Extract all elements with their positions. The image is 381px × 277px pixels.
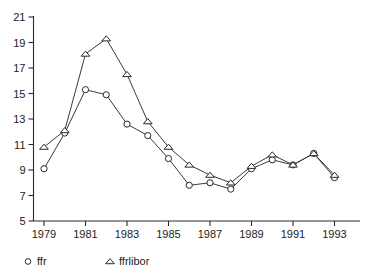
x-tick-label: 1981 — [73, 228, 97, 240]
x-tick-label: 1987 — [198, 228, 222, 240]
y-tick-label: 17 — [13, 62, 25, 74]
legend-item-ffr[interactable]: ffr — [25, 255, 47, 267]
legend-circle-icon — [25, 259, 31, 265]
y-axis: 579111315171921 — [13, 11, 33, 227]
data-point-triangle-marker — [164, 144, 173, 149]
data-point-circle-marker — [186, 182, 192, 188]
data-point-circle-marker — [41, 166, 47, 172]
x-tick-label: 1993 — [322, 228, 346, 240]
data-point-circle-marker — [103, 92, 109, 98]
legend-label: ffrlibor — [119, 255, 150, 267]
data-point-triangle-marker — [206, 172, 215, 177]
y-tick-label: 15 — [13, 88, 25, 100]
chart-legend: ffrffrlibor — [25, 255, 149, 267]
legend-item-ffrlibor[interactable]: ffrlibor — [106, 255, 150, 267]
x-tick-label: 1985 — [156, 228, 180, 240]
legend-triangle-icon — [106, 259, 115, 264]
y-tick-label: 13 — [13, 113, 25, 125]
series-layer — [40, 36, 339, 192]
y-tick-label: 9 — [19, 164, 25, 176]
data-point-triangle-marker — [60, 128, 69, 133]
data-point-circle-marker — [82, 87, 88, 93]
legend-label: ffr — [37, 255, 47, 267]
data-point-triangle-marker — [102, 36, 111, 41]
data-point-circle-marker — [165, 155, 171, 161]
line-chart: 579111315171921 197919811983198519871989… — [0, 0, 381, 277]
data-point-circle-marker — [269, 157, 275, 163]
y-tick-label: 5 — [19, 215, 25, 227]
series-line-ffrlibor — [44, 39, 335, 183]
x-tick-label: 1991 — [281, 228, 305, 240]
data-point-triangle-marker — [268, 152, 277, 157]
x-tick-label: 1983 — [115, 228, 139, 240]
data-point-triangle-marker — [123, 71, 132, 76]
data-point-circle-marker — [207, 180, 213, 186]
y-tick-label: 7 — [19, 190, 25, 202]
y-tick-label: 21 — [13, 11, 25, 23]
series-ffr — [41, 87, 338, 193]
chart-container: 579111315171921 197919811983198519871989… — [0, 0, 381, 277]
series-line-ffr — [44, 90, 335, 189]
data-point-circle-marker — [124, 121, 130, 127]
y-tick-label: 11 — [14, 139, 25, 151]
data-point-circle-marker — [145, 132, 151, 138]
x-tick-label: 1979 — [32, 228, 56, 240]
series-ffrlibor — [40, 36, 339, 185]
data-point-triangle-marker — [143, 119, 152, 124]
y-tick-label: 19 — [13, 37, 25, 49]
x-tick-label: 1989 — [239, 228, 263, 240]
x-axis: 19791981198319851987198919911993 — [32, 221, 360, 240]
data-point-circle-marker — [228, 186, 234, 192]
